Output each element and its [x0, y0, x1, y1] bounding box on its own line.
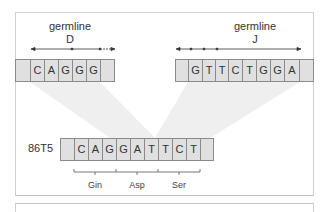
- recombined-cell: [200, 138, 214, 161]
- j-projection-band: [155, 82, 300, 138]
- j-cell: [175, 59, 188, 82]
- recombined-sequence: C A G G A T T C T: [60, 138, 214, 161]
- recombined-cell: G: [102, 138, 116, 161]
- d-sequence: C A G G G: [15, 59, 115, 82]
- j-sequence: G T T C T G G A: [175, 59, 314, 82]
- d-cell: G: [86, 59, 100, 82]
- recombined-cell: C: [172, 138, 186, 161]
- codon-bracket: [74, 169, 200, 175]
- recombined-cell: T: [158, 138, 172, 161]
- d-cell: G: [58, 59, 72, 82]
- recombined-cell: C: [74, 138, 88, 161]
- j-segment-label: J: [225, 33, 285, 45]
- recombined-cell: T: [186, 138, 200, 161]
- codon-label-gln: Gin: [75, 180, 115, 190]
- d-cell: A: [44, 59, 58, 82]
- recombined-cell: A: [130, 138, 144, 161]
- recombined-cell: [60, 138, 74, 161]
- j-cell: T: [215, 59, 228, 82]
- j-cell: T: [202, 59, 215, 82]
- recombined-cell: G: [116, 138, 130, 161]
- d-germline-label: germline: [40, 20, 100, 32]
- d-projection-band: [30, 82, 155, 138]
- recombined-cell: A: [88, 138, 102, 161]
- clone-label: 86T5: [28, 142, 58, 154]
- d-segment-label: D: [40, 33, 100, 45]
- j-cell: G: [256, 59, 270, 82]
- codon-label-ser: Ser: [159, 180, 199, 190]
- j-germline-label: germline: [225, 20, 285, 32]
- j-cell: G: [270, 59, 284, 82]
- j-cell: [299, 59, 314, 82]
- d-cell: [15, 59, 30, 82]
- d-cell: [100, 59, 115, 82]
- d-cell: G: [72, 59, 86, 82]
- j-cell: G: [188, 59, 202, 82]
- j-cell: T: [242, 59, 256, 82]
- j-cell: A: [284, 59, 299, 82]
- d-span-arrows: [31, 48, 115, 51]
- j-cell: C: [228, 59, 242, 82]
- d-cell: C: [30, 59, 44, 82]
- recombined-cell: T: [144, 138, 158, 161]
- codon-label-asp: Asp: [117, 180, 157, 190]
- j-span-arrows: [176, 48, 301, 51]
